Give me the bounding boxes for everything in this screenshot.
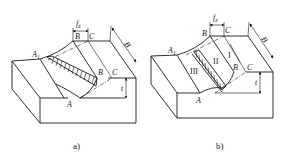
- left-slope-edge: [12, 61, 40, 98]
- width-label: B: [122, 40, 132, 49]
- caption-b: b): [216, 141, 224, 151]
- depth-label: t: [121, 84, 124, 93]
- cutter-arc-right: [222, 72, 234, 88]
- label-zone-i: I: [228, 51, 231, 60]
- chip-band: [194, 50, 226, 90]
- centerline-bottom: [215, 72, 246, 93]
- width-label: B: [259, 35, 269, 44]
- milling-diagram: fz B t B C B C A1 A a): [0, 0, 283, 163]
- centerline-top: [186, 36, 224, 55]
- left-top-edge: [12, 59, 40, 61]
- label-a: A: [195, 96, 201, 105]
- label-a: A: [66, 100, 72, 109]
- chip-band: [47, 56, 97, 86]
- panel-a: fz B t B C B C A1 A a): [12, 19, 136, 151]
- panel-b: fz B t B C B C A1 A I II III b): [151, 13, 273, 151]
- label-b-mid: B: [233, 63, 238, 72]
- label-a1: A1: [167, 46, 176, 56]
- chip-hatch: [52, 57, 94, 84]
- label-c-mid: C: [247, 63, 253, 72]
- zone-i-leader: [230, 44, 240, 62]
- label-b-mid: B: [98, 68, 103, 77]
- width-ext: [110, 26, 111, 41]
- label-c-mid: C: [112, 68, 118, 77]
- label-c-top: C: [225, 26, 231, 35]
- caption-a: a): [73, 141, 80, 151]
- label-c-top: C: [89, 32, 95, 41]
- depth-label: t: [255, 78, 258, 87]
- label-b-top: B: [75, 32, 80, 41]
- cutter-arc-top: [177, 36, 210, 55]
- label-b-top: B: [202, 29, 207, 38]
- fz-label: fz: [76, 19, 81, 29]
- label-zone-ii: II: [213, 57, 219, 66]
- cutter-arc-top: [40, 41, 73, 59]
- label-zone-iii: III: [190, 67, 198, 76]
- width-ext: [248, 22, 249, 36]
- left-slope-edge: [151, 56, 177, 93]
- fz-label: fz: [213, 13, 218, 23]
- label-a1: A1: [31, 50, 40, 60]
